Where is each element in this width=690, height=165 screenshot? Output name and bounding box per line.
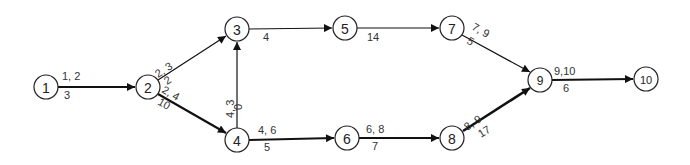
- label-duration-6-8: 7: [372, 140, 378, 152]
- node-label: 9: [537, 74, 544, 88]
- label-activity-1-2: 1, 2: [62, 70, 80, 82]
- network-diagram: 1, 2 3 2, 3 2 2, 4 10 4, 3 0 4 14 4, 6 5…: [0, 0, 690, 165]
- label-duration-1-2: 3: [64, 89, 70, 101]
- node-label: 8: [448, 131, 456, 147]
- label-duration-3-5: 4: [263, 31, 269, 43]
- node-6: 6: [335, 126, 359, 150]
- node-8: 8: [440, 126, 464, 150]
- node-5: 5: [333, 16, 357, 40]
- node-label: 7: [448, 21, 456, 37]
- node-3: 3: [225, 17, 249, 41]
- label-activity-9-10: 9,10: [554, 65, 575, 77]
- label-duration-4-6: 5: [264, 141, 270, 153]
- node-label: 2: [144, 80, 152, 96]
- node-9: 9: [528, 68, 552, 92]
- node-2: 2: [136, 75, 160, 99]
- label-duration-5-7: 14: [367, 31, 379, 43]
- node-label: 10: [640, 74, 652, 86]
- node-10: 10: [634, 67, 658, 91]
- node-7: 7: [440, 16, 464, 40]
- edge-4-6: [249, 138, 334, 140]
- node-label: 1: [42, 80, 50, 96]
- label-duration-7-9: 5: [465, 34, 476, 47]
- node-label: 6: [343, 131, 351, 147]
- edge-9-10: [552, 79, 633, 80]
- label-duration-9-10: 6: [563, 82, 569, 94]
- label-activity-4-6: 4, 6: [258, 124, 276, 136]
- node-4: 4: [225, 128, 249, 152]
- node-label: 4: [233, 133, 241, 149]
- label-duration-4-3: 0: [232, 104, 244, 110]
- node-1: 1: [34, 75, 58, 99]
- node-label: 5: [341, 21, 349, 37]
- node-label: 3: [233, 22, 241, 38]
- label-activity-6-8: 6, 8: [366, 123, 384, 135]
- edge-3-5: [249, 28, 332, 29]
